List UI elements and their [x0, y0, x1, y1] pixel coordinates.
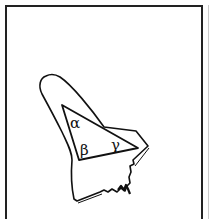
angle-label-beta: β	[80, 141, 89, 159]
angle-label-alpha: α	[70, 114, 80, 132]
angle-label-gamma: γ	[111, 136, 120, 154]
torn-paper-outline	[40, 75, 148, 201]
torn-paper-diagram: α β γ	[0, 0, 212, 219]
